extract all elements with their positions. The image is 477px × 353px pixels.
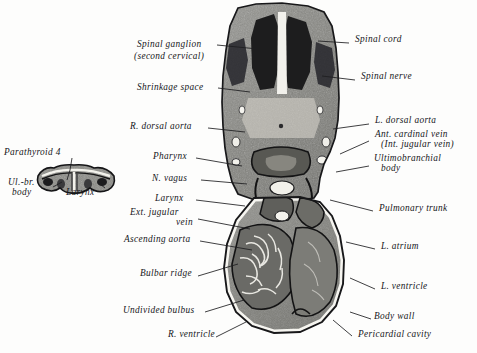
label-spinal-nerve: Spinal nerve bbox=[361, 72, 412, 82]
heart-region bbox=[196, 192, 366, 342]
label-r-dorsal-aorta: R. dorsal aorta bbox=[130, 122, 192, 132]
label-ext-jugular-vein: vein bbox=[176, 218, 193, 228]
inset-label-body: body bbox=[12, 188, 31, 198]
label-ascending-aorta: Ascending aorta bbox=[124, 235, 190, 245]
label-pulmonary-trunk: Pulmonary trunk bbox=[379, 204, 448, 214]
label-body-wall: Body wall bbox=[374, 312, 415, 322]
label-spinal-ganglion: Spinal ganglion bbox=[137, 40, 201, 50]
inset-label-parathyroid-4: Parathyroid 4 bbox=[4, 148, 61, 158]
label-pharynx: Pharynx bbox=[153, 152, 187, 162]
label-l-ventricle: L. ventricle bbox=[381, 282, 428, 292]
label-r-ventricle: R. ventricle bbox=[168, 330, 215, 340]
inset-label-larynx: Larynx bbox=[66, 188, 94, 198]
label-bulbar-ridge: Bulbar ridge bbox=[140, 269, 192, 279]
label-n-vagus: N. vagus bbox=[152, 174, 187, 184]
label-l-atrium: L. atrium bbox=[381, 242, 419, 252]
figure-caption-cutoff bbox=[0, 345, 477, 353]
label-int-jugular-vein: (Int. jugular vein) bbox=[381, 140, 454, 150]
label-second-cervical: (second cervical) bbox=[134, 52, 204, 62]
label-ultimobranchial-body: body bbox=[381, 164, 400, 174]
label-shrinkage-space: Shrinkage space bbox=[137, 83, 203, 93]
label-spinal-cord: Spinal cord bbox=[355, 35, 402, 45]
label-undivided-bulbus: Undivided bulbus bbox=[123, 306, 194, 316]
anatomical-figure: Parathyroid 4 Ul.-br. body Larynx Spinal… bbox=[0, 0, 477, 353]
label-pericardial-cavity: Pericardial cavity bbox=[358, 330, 431, 340]
label-larynx: Larynx bbox=[155, 194, 183, 204]
specimen-section-image bbox=[196, 2, 366, 342]
label-l-dorsal-aorta: L. dorsal aorta bbox=[375, 116, 436, 126]
label-ext-jugular: Ext. jugular bbox=[130, 208, 179, 218]
